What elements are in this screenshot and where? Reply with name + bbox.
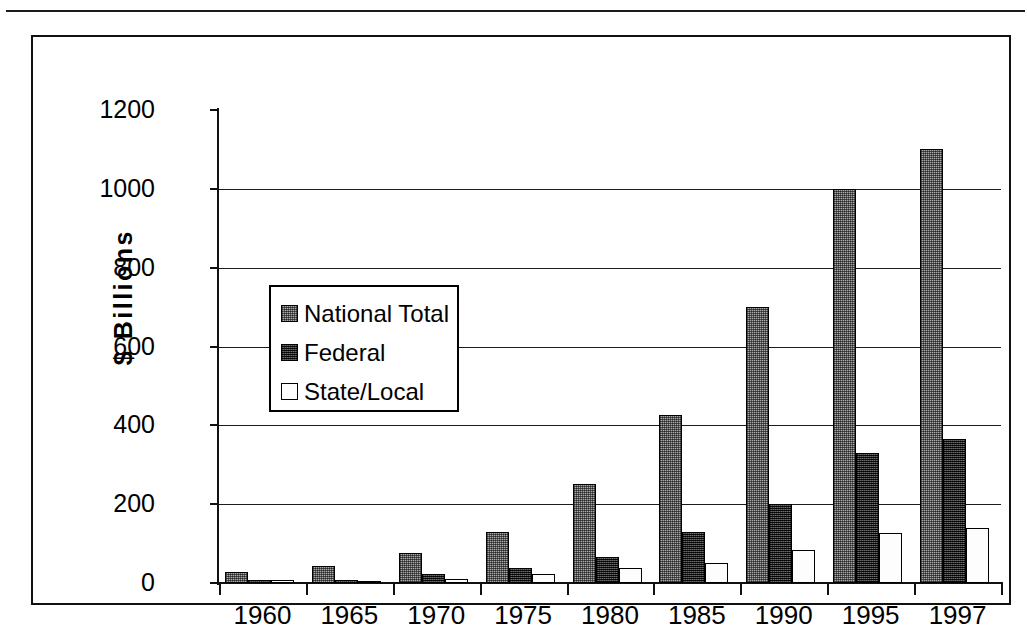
- bar-state-local-1960: [271, 580, 294, 583]
- x-tick-mark: [914, 584, 916, 595]
- bar-federal-1975: [509, 568, 532, 583]
- bar-national-total-1997: [920, 149, 943, 583]
- legend-label-national-total: National Total: [304, 302, 449, 326]
- bar-state-local-1965: [358, 581, 381, 583]
- chart-page: $ Billions 020040060080010001200 1960196…: [0, 0, 1027, 633]
- gridline: [219, 189, 1001, 190]
- y-tick-mark: [210, 424, 219, 426]
- bar-federal-1990: [769, 504, 792, 583]
- x-tick-label: 1965: [306, 600, 393, 630]
- y-tick-label: 400: [35, 412, 155, 437]
- legend-item-national-total: National Total: [281, 294, 457, 333]
- x-tick-mark: [480, 584, 482, 595]
- x-tick-label: 1980: [567, 600, 654, 630]
- bar-federal-1965: [335, 580, 358, 583]
- chart-legend: National Total Federal State/Local: [269, 285, 459, 412]
- bar-national-total-1975: [486, 532, 509, 583]
- x-tick-label: 1985: [653, 600, 740, 630]
- gridline: [219, 504, 1001, 505]
- legend-label-state-local: State/Local: [304, 380, 424, 404]
- gridline: [219, 425, 1001, 426]
- x-tick-mark: [306, 584, 308, 595]
- legend-label-federal: Federal: [304, 341, 385, 365]
- x-tick-mark: [219, 584, 221, 595]
- bar-national-total-1985: [659, 415, 682, 583]
- x-tick-label: 1975: [480, 600, 567, 630]
- bar-federal-1995: [856, 453, 879, 583]
- bar-state-local-1985: [705, 563, 728, 583]
- x-tick-mark: [653, 584, 655, 595]
- x-tick-label: 1995: [827, 600, 914, 630]
- legend-swatch-state-local-icon: [281, 383, 298, 400]
- y-tick-label: 0: [35, 570, 155, 595]
- y-tick-label: 800: [35, 255, 155, 280]
- y-tick-label: 200: [35, 491, 155, 516]
- legend-swatch-federal-icon: [281, 344, 298, 361]
- y-tick-mark: [210, 346, 219, 348]
- bar-national-total-1995: [833, 189, 856, 583]
- x-tick-mark: [827, 584, 829, 595]
- y-tick-label: 600: [35, 334, 155, 359]
- bar-state-local-1995: [879, 533, 902, 583]
- figure-frame: $ Billions 020040060080010001200 1960196…: [31, 35, 1011, 605]
- y-tick-label: 1000: [35, 176, 155, 201]
- bar-national-total-1980: [573, 484, 596, 583]
- bar-national-total-1970: [399, 553, 422, 583]
- y-tick-label: 1200: [35, 97, 155, 122]
- bar-federal-1960: [248, 580, 271, 583]
- y-tick-mark: [210, 503, 219, 505]
- bar-federal-1997: [943, 439, 966, 583]
- bar-state-local-1980: [619, 568, 642, 583]
- bar-federal-1985: [682, 532, 705, 583]
- x-tick-mark: [393, 584, 395, 595]
- x-tick-mark: [567, 584, 569, 595]
- x-tick-mark: [1001, 584, 1003, 595]
- y-tick-mark: [210, 188, 219, 190]
- y-tick-mark: [210, 582, 219, 584]
- x-tick-label: 1997: [914, 600, 1001, 630]
- page-top-rule: [6, 10, 1025, 12]
- y-tick-mark: [210, 109, 219, 111]
- bar-state-local-1970: [445, 579, 468, 583]
- x-tick-label: 1990: [740, 600, 827, 630]
- bar-national-total-1960: [225, 572, 248, 583]
- legend-item-state-local: State/Local: [281, 372, 457, 411]
- bar-national-total-1965: [312, 566, 335, 583]
- x-tick-label: 1960: [219, 600, 306, 630]
- legend-item-federal: Federal: [281, 333, 457, 372]
- x-tick-label: 1970: [393, 600, 480, 630]
- bar-national-total-1990: [746, 307, 769, 583]
- legend-swatch-national-total-icon: [281, 305, 298, 322]
- x-tick-mark: [740, 584, 742, 595]
- gridline: [219, 268, 1001, 269]
- bar-state-local-1997: [966, 528, 989, 583]
- bar-federal-1970: [422, 574, 445, 583]
- y-tick-mark: [210, 267, 219, 269]
- bar-state-local-1975: [532, 574, 555, 583]
- bar-state-local-1990: [792, 550, 815, 584]
- bar-federal-1980: [596, 557, 619, 583]
